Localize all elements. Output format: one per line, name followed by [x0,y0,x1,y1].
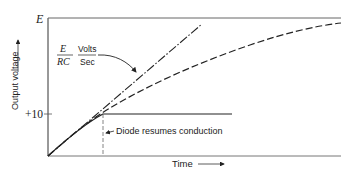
slope-numerator: E [59,43,66,54]
x-axis-label: Time [172,158,193,169]
unit-numerator: Volts [78,44,96,54]
diode-annotation: Diode resumes conduction [116,126,223,136]
e-level-label: E [35,12,44,26]
annotation-pointer-arrow [106,131,114,133]
slope-denominator: RC [56,56,70,67]
slope-pointer-arrow [98,55,136,72]
y-axis-label: Output voltage [10,51,20,110]
exponential-charge-curve [48,23,341,156]
clamp-level-label: +10 [25,108,43,120]
diagram-canvas: E +10 Output voltage E RC Volts Sec Diod… [0,0,351,177]
voltage-time-diagram: E +10 Output voltage E RC Volts Sec Diod… [0,0,351,177]
unit-denominator: Sec [80,57,95,67]
